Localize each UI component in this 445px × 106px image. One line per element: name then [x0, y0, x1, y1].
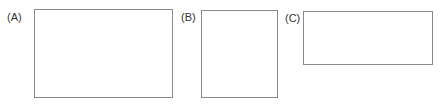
panel-a-rectangle: [34, 9, 173, 98]
panel-c-rectangle: [303, 11, 433, 65]
panel-a-label: (A): [7, 11, 22, 23]
panel-b-label: (B): [181, 11, 196, 23]
panel-c-label: (C): [285, 12, 300, 24]
panel-b-rectangle: [201, 10, 278, 98]
